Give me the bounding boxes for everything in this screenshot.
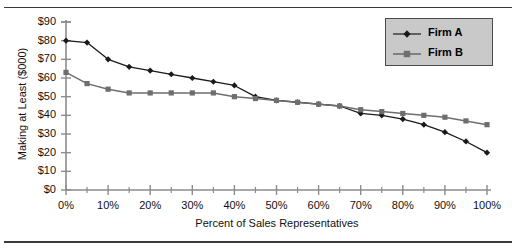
y-tick-label: $50 [22,90,56,102]
legend-marker-square-icon [392,46,422,58]
y-tick-label: $70 [22,52,56,64]
line-chart: Making at Least ($000) Percent of Sales … [0,10,516,240]
x-tick-label: 60% [299,199,339,211]
bottom-divider-rule [4,241,512,243]
x-tick-label: 80% [383,199,423,211]
x-tick-label: 40% [214,199,254,211]
y-tick-label: $0 [22,183,56,195]
legend-label-firm-a: Firm A [428,26,462,38]
y-tick-label: $60 [22,71,56,83]
x-tick-label: 0% [46,199,86,211]
clipped-caption-text [6,0,506,3]
x-tick-label: 10% [88,199,128,211]
y-tick-label: $80 [22,34,56,46]
y-tick-label: $30 [22,127,56,139]
x-tick-label: 30% [172,199,212,211]
legend-marker-diamond-icon [392,26,422,38]
top-divider-rule [4,7,512,8]
x-tick-label: 50% [257,199,297,211]
legend-entry-firm-b: Firm B [392,43,488,61]
x-tick-label: 70% [341,199,381,211]
y-tick-label: $90 [22,15,56,27]
y-axis-title: Making at Least ($000) [16,24,28,184]
chart-page: Making at Least ($000) Percent of Sales … [0,0,516,249]
y-tick-label: $10 [22,164,56,176]
y-tick-label: $40 [22,108,56,120]
chart-legend: Firm A Firm B [385,18,493,66]
x-axis-title: Percent of Sales Representatives [66,217,488,229]
y-tick-label: $20 [22,146,56,158]
x-tick-label: 100% [467,199,507,211]
series-firm-b [63,70,489,127]
x-tick-label: 20% [130,199,170,211]
legend-entry-firm-a: Firm A [392,23,488,41]
legend-label-firm-b: Firm B [428,46,463,58]
x-tick-label: 90% [425,199,465,211]
